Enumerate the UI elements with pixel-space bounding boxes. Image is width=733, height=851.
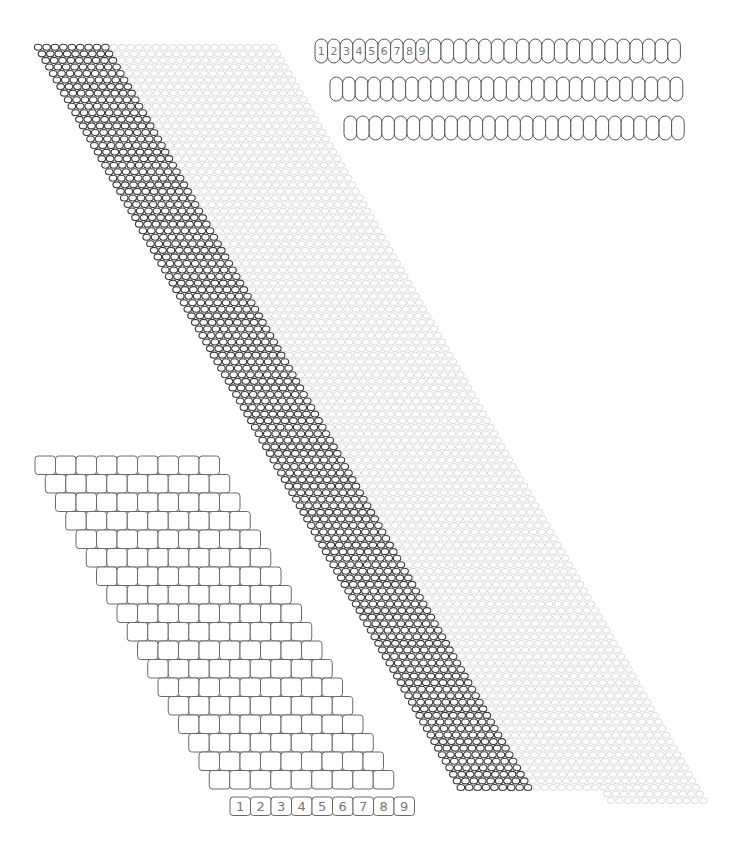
light-bead — [491, 653, 499, 659]
light-bead — [415, 549, 423, 555]
light-bead — [600, 667, 608, 673]
light-bead — [605, 647, 613, 653]
light-bead — [396, 457, 404, 463]
light-bead — [406, 549, 414, 555]
light-bead — [271, 208, 279, 214]
light-bead — [515, 621, 523, 627]
dark-bead — [338, 503, 346, 509]
oval-row-2 — [330, 77, 683, 101]
dark-bead — [301, 437, 309, 443]
light-bead — [275, 260, 283, 266]
dark-bead — [387, 647, 395, 653]
light-bead — [297, 136, 305, 142]
light-bead — [474, 549, 482, 555]
dark-bead — [426, 627, 434, 633]
dark-bead — [274, 346, 282, 352]
light-bead — [314, 313, 322, 319]
light-bead — [551, 699, 559, 705]
light-bead — [417, 405, 425, 411]
light-bead — [217, 188, 225, 194]
dark-bead — [128, 90, 136, 96]
dark-bead — [472, 752, 480, 758]
light-bead — [523, 621, 531, 627]
dark-bead — [453, 719, 461, 725]
light-bead — [435, 378, 443, 384]
dark-bead — [189, 300, 197, 306]
light-bead — [352, 247, 360, 253]
light-bead — [486, 614, 494, 620]
light-bead — [271, 267, 279, 273]
dark-bead — [319, 424, 327, 430]
dark-bead — [142, 188, 150, 194]
dark-bead — [86, 90, 94, 96]
light-bead — [182, 156, 190, 162]
light-bead — [203, 90, 211, 96]
dark-bead — [109, 175, 117, 181]
dark-bead — [373, 608, 381, 614]
light-bead — [277, 175, 285, 181]
light-bead — [293, 129, 301, 135]
light-bead — [441, 359, 449, 365]
light-bead — [525, 771, 533, 777]
light-bead — [199, 97, 207, 103]
light-bead — [571, 601, 579, 607]
light-bead — [270, 103, 278, 109]
light-bead — [359, 333, 367, 339]
light-bead — [385, 319, 393, 325]
dark-bead — [424, 653, 432, 659]
dark-bead — [407, 667, 415, 673]
square-bead — [86, 549, 107, 568]
light-bead — [228, 221, 236, 227]
light-bead — [506, 739, 514, 745]
dark-bead — [265, 346, 273, 352]
dark-bead — [365, 536, 373, 542]
square-bead — [240, 567, 261, 586]
light-bead — [646, 791, 654, 797]
square-bead — [209, 586, 230, 605]
light-bead — [499, 549, 507, 555]
dark-bead — [117, 129, 125, 135]
light-bead — [398, 431, 406, 437]
light-bead — [260, 116, 268, 122]
light-bead — [636, 686, 644, 692]
light-bead — [599, 621, 607, 627]
light-bead — [316, 156, 324, 162]
dark-bead — [91, 129, 99, 135]
light-bead — [382, 418, 390, 424]
dark-bead — [195, 267, 203, 273]
dark-bead — [397, 621, 405, 627]
light-bead — [199, 156, 207, 162]
light-bead — [641, 798, 649, 804]
dark-bead — [460, 745, 468, 751]
dark-bead — [363, 503, 371, 509]
light-bead — [552, 568, 560, 574]
light-bead — [522, 634, 530, 640]
dark-bead — [93, 44, 101, 50]
light-bead — [215, 110, 223, 116]
light-bead — [500, 536, 508, 542]
light-bead — [498, 680, 506, 686]
light-bead — [415, 313, 423, 319]
light-bead — [430, 457, 438, 463]
light-bead — [487, 660, 495, 666]
light-bead — [503, 732, 511, 738]
dark-bead — [146, 123, 154, 129]
light-bead — [403, 352, 411, 358]
dark-bead — [123, 156, 131, 162]
light-bead — [350, 274, 358, 280]
light-bead — [434, 450, 442, 456]
light-bead — [426, 450, 434, 456]
light-bead — [311, 234, 319, 240]
light-bead — [233, 143, 241, 149]
light-bead — [287, 90, 295, 96]
light-bead — [631, 706, 639, 712]
light-bead — [513, 529, 521, 535]
light-bead — [361, 411, 369, 417]
light-bead — [355, 326, 363, 332]
light-bead — [589, 765, 597, 771]
light-bead — [529, 719, 537, 725]
light-bead — [521, 588, 529, 594]
light-bead — [315, 300, 323, 306]
dark-bead — [62, 64, 70, 70]
dark-bead — [431, 680, 439, 686]
